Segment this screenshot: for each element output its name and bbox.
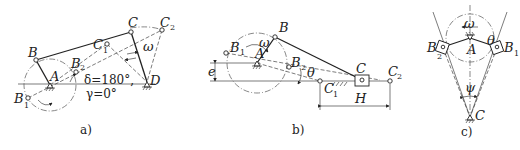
label-gamma: γ=0° <box>86 87 117 101</box>
crank-AB <box>36 60 50 85</box>
mechanism-diagrams: B A B 1 B 2 C C 1 C 2 D ω δ=180°, γ=0° a… <box>0 0 520 150</box>
svg-text:2: 2 <box>80 63 85 72</box>
label-e: e <box>208 64 216 79</box>
caption-a: a) <box>80 123 92 137</box>
label-C: C <box>128 15 138 30</box>
label-D: D <box>149 73 161 88</box>
svg-text:1: 1 <box>333 90 338 99</box>
label-C2: C <box>160 15 170 30</box>
label-theta: θ <box>487 33 495 48</box>
label-B1: B <box>13 91 24 106</box>
svg-text:1: 1 <box>240 48 245 57</box>
ground-hatching-icon <box>332 82 347 86</box>
figure-b-slider-crank: B A B 1 B 2 θ ω C C 1 C 2 e H b) <box>208 20 402 137</box>
figure-c-guide-bar: ω θ A B 2 B 1 ψ C c) <box>426 5 519 139</box>
label-B1: B <box>503 40 514 55</box>
svg-text:1: 1 <box>103 46 108 55</box>
ground-pivot-C-icon <box>465 115 475 123</box>
label-B: B <box>278 20 289 35</box>
label-B2: B <box>426 40 437 55</box>
caption-b: b) <box>292 123 304 137</box>
label-C: C <box>356 61 366 76</box>
caption-c: c) <box>461 125 472 139</box>
label-omega: ω <box>464 16 475 31</box>
label-B: B <box>27 45 38 60</box>
label-B2: B <box>290 55 301 70</box>
svg-text:2: 2 <box>170 23 175 32</box>
label-B1: B <box>229 40 240 55</box>
rotation-arrow-icon <box>38 100 52 105</box>
figure-a-crank-rocker: B A B 1 B 2 C C 1 C 2 D ω δ=180°, γ=0° a… <box>13 15 175 137</box>
label-omega: ω <box>143 39 154 54</box>
svg-text:2: 2 <box>437 52 442 61</box>
label-B2: B <box>70 56 81 71</box>
label-A: A <box>49 69 59 84</box>
coupler-BC <box>36 32 131 60</box>
label-omega: ω <box>259 35 270 50</box>
omega-arrow-icon <box>125 58 136 60</box>
label-delta: δ=180°, <box>84 73 134 87</box>
label-H: H <box>354 91 367 106</box>
label-A: A <box>466 42 476 57</box>
svg-text:1: 1 <box>514 49 519 58</box>
svg-text:2: 2 <box>397 72 402 81</box>
label-C: C <box>475 108 485 123</box>
coupler-BC <box>275 37 362 80</box>
label-psi: ψ <box>465 80 476 95</box>
label-theta: θ <box>307 65 315 80</box>
ground-pivot-A-icon <box>252 61 262 69</box>
svg-text:1: 1 <box>24 101 29 110</box>
omega-arrow-icon <box>127 52 138 54</box>
svg-text:2: 2 <box>301 63 306 72</box>
label-C1: C <box>93 37 103 52</box>
guide-line-right <box>470 12 507 117</box>
